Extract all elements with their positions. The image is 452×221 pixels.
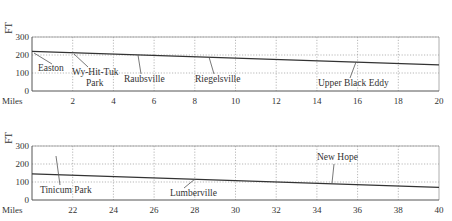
y-tick-label: 300: [16, 141, 30, 151]
x-tick-label: 6: [152, 96, 157, 106]
x-tick-label: 18: [394, 96, 404, 106]
place-label-raubsville: Raubsville: [124, 74, 165, 84]
place-label-new-hope: New Hope: [317, 152, 358, 162]
annotation-leader-line: [184, 179, 195, 188]
x-tick-label: 30: [231, 205, 241, 215]
x-tick-label: 4: [111, 96, 116, 106]
x-axis-label: Miles: [2, 205, 23, 215]
annotation-leader-line: [350, 62, 356, 78]
x-tick-label: 22: [68, 205, 77, 215]
chart-panel-1: 0100200300FTMiles2468101214161820EastonW…: [2, 22, 444, 106]
x-tick-label: 40: [435, 205, 445, 215]
x-tick-label: 10: [231, 96, 241, 106]
annotation-leader-line: [332, 164, 334, 183]
x-tick-label: 24: [109, 205, 119, 215]
annotation-leader-line: [209, 57, 214, 74]
annotation-leader-line: [138, 55, 141, 74]
y-axis-label: FT: [3, 22, 14, 34]
x-tick-label: 38: [394, 205, 404, 215]
y-tick-label: 200: [16, 50, 30, 60]
annotation-leader-line: [74, 54, 88, 67]
y-axis-label: FT: [3, 132, 14, 144]
place-label-wy-hit-tuk-park: Park: [86, 78, 104, 88]
y-tick-label: 100: [16, 177, 30, 187]
place-label-tinicum-park: Tinicum Park: [40, 185, 92, 195]
chart-panel-2: 0100200300FTMiles22242628303234363840Tin…: [2, 132, 444, 215]
x-tick-label: 28: [190, 205, 200, 215]
x-tick-label: 2: [70, 96, 75, 106]
y-tick-label: 0: [25, 195, 30, 205]
place-label-lumberville: Lumberville: [170, 188, 217, 198]
x-axis-label: Miles: [2, 96, 23, 106]
y-tick-label: 300: [16, 32, 30, 42]
x-tick-label: 34: [312, 205, 322, 215]
y-tick-label: 0: [25, 86, 30, 96]
x-tick-label: 32: [272, 205, 281, 215]
x-tick-label: 8: [193, 96, 198, 106]
x-tick-label: 14: [312, 96, 322, 106]
x-tick-label: 36: [353, 205, 363, 215]
x-tick-label: 12: [272, 96, 281, 106]
x-tick-label: 16: [353, 96, 363, 106]
y-tick-label: 100: [16, 68, 30, 78]
place-label-wy-hit-tuk-park: Wy-Hit-Tuk: [72, 67, 119, 77]
place-label-easton: Easton: [38, 63, 64, 73]
x-tick-label: 26: [150, 205, 160, 215]
y-tick-label: 200: [16, 159, 30, 169]
annotation-leader-line: [56, 156, 60, 185]
x-tick-label: 20: [435, 96, 445, 106]
elevation-profile-charts: 0100200300FTMiles2468101214161820EastonW…: [0, 0, 452, 221]
place-label-riegelsville: Riegelsville: [195, 74, 240, 84]
place-label-upper-black-eddy: Upper Black Eddy: [318, 78, 389, 88]
